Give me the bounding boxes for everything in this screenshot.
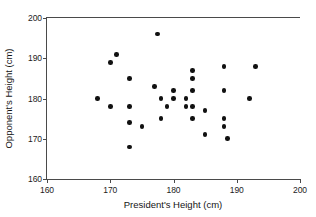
y-tick-mark bbox=[43, 99, 47, 100]
data-point bbox=[159, 116, 164, 121]
data-point bbox=[155, 32, 160, 37]
y-tick-label: 190 bbox=[28, 53, 42, 63]
data-point bbox=[95, 96, 100, 101]
y-tick-label: 170 bbox=[28, 134, 42, 144]
data-point bbox=[225, 136, 230, 141]
data-point bbox=[127, 76, 132, 81]
data-point bbox=[253, 64, 258, 69]
y-tick-label: 200 bbox=[28, 13, 42, 23]
data-point bbox=[114, 52, 119, 57]
data-point bbox=[184, 104, 189, 109]
plot-area: 160170180190200 160170180190200 bbox=[46, 17, 300, 180]
data-point bbox=[222, 88, 227, 93]
data-point bbox=[222, 64, 227, 69]
x-tick-label: 160 bbox=[40, 185, 54, 195]
data-point bbox=[190, 88, 195, 93]
data-point bbox=[247, 96, 252, 101]
y-tick-mark bbox=[43, 18, 47, 19]
data-point bbox=[190, 116, 195, 121]
x-tick-mark bbox=[47, 179, 48, 183]
x-tick-mark bbox=[110, 179, 111, 183]
x-tick-label: 190 bbox=[230, 185, 244, 195]
data-point bbox=[190, 104, 195, 109]
data-point bbox=[203, 132, 208, 137]
data-point bbox=[108, 60, 113, 65]
x-tick-mark bbox=[174, 179, 175, 183]
data-point bbox=[127, 104, 132, 109]
scatter-plot-figure: 160170180190200 160170180190200 Opponent… bbox=[0, 0, 316, 217]
data-point bbox=[203, 108, 208, 113]
data-point bbox=[184, 96, 189, 101]
data-point bbox=[190, 76, 195, 81]
x-tick-label: 200 bbox=[293, 185, 307, 195]
data-point bbox=[140, 124, 145, 129]
x-tick-mark bbox=[300, 179, 301, 183]
x-axis-title: President's Height (cm) bbox=[46, 199, 300, 210]
x-tick-mark bbox=[237, 179, 238, 183]
data-points-layer bbox=[47, 18, 300, 179]
data-point bbox=[165, 104, 170, 109]
data-point bbox=[127, 145, 132, 150]
data-point bbox=[171, 96, 176, 101]
y-tick-label: 180 bbox=[28, 94, 42, 104]
data-point bbox=[159, 96, 164, 101]
x-tick-label: 170 bbox=[103, 185, 117, 195]
data-point bbox=[152, 84, 157, 89]
data-point bbox=[222, 116, 227, 121]
x-tick-label: 180 bbox=[167, 185, 181, 195]
data-point bbox=[108, 104, 113, 109]
y-tick-label: 160 bbox=[28, 174, 42, 184]
y-axis-title: Opponent's Height (cm) bbox=[2, 17, 14, 180]
y-tick-mark bbox=[43, 58, 47, 59]
data-point bbox=[127, 120, 132, 125]
data-point bbox=[222, 124, 227, 129]
data-point bbox=[171, 88, 176, 93]
data-point bbox=[190, 68, 195, 73]
y-tick-mark bbox=[43, 139, 47, 140]
y-axis-title-text: Opponent's Height (cm) bbox=[3, 48, 14, 148]
